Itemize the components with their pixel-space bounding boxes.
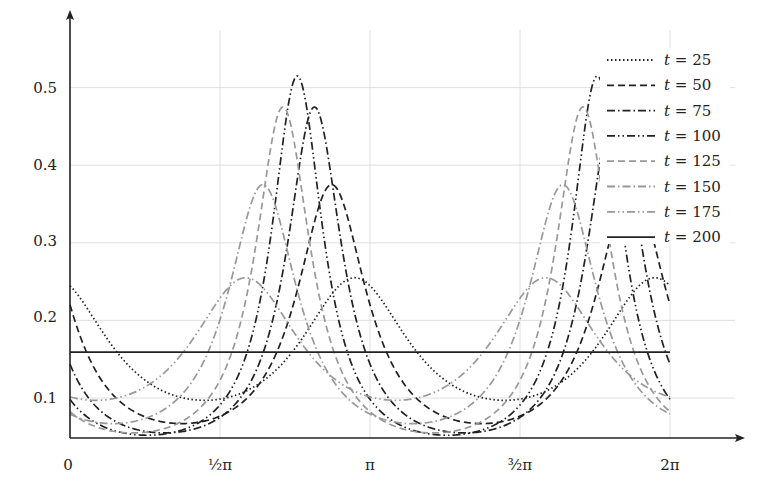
y-tick-0-5: 0.5 bbox=[33, 79, 57, 97]
legend: t = 25t = 50t = 75t = 100t = 125t = 150t… bbox=[600, 48, 730, 246]
legend-label: t = 25 bbox=[664, 51, 711, 69]
x-tick-0: 0 bbox=[63, 456, 73, 474]
legend-label: t = 150 bbox=[664, 178, 721, 196]
y-tick-0-3: 0.3 bbox=[33, 232, 57, 250]
x-tick-two-pi: 2π bbox=[660, 456, 680, 474]
y-tick-0-4: 0.4 bbox=[33, 156, 57, 174]
legend-label: t = 100 bbox=[664, 127, 721, 145]
legend-label: t = 75 bbox=[664, 102, 711, 120]
legend-label: t = 50 bbox=[664, 76, 711, 94]
legend-label: t = 175 bbox=[664, 203, 721, 221]
y-tick-0-1: 0.1 bbox=[33, 389, 57, 407]
x-tick-half-pi: ½π bbox=[208, 456, 233, 474]
x-tick-pi: π bbox=[365, 456, 375, 474]
chart: 0 ½π π ³⁄₂π 2π 0.1 0.2 0.3 0.4 0.5 t = 2… bbox=[0, 0, 761, 491]
y-tick-labels: 0.1 0.2 0.3 0.4 0.5 bbox=[33, 79, 57, 407]
legend-label: t = 125 bbox=[664, 152, 721, 170]
legend-label: t = 200 bbox=[664, 228, 721, 246]
x-tick-labels: 0 ½π π ³⁄₂π 2π bbox=[63, 456, 680, 474]
x-tick-three-half-pi: ³⁄₂π bbox=[508, 456, 533, 474]
y-tick-0-2: 0.2 bbox=[33, 308, 57, 326]
